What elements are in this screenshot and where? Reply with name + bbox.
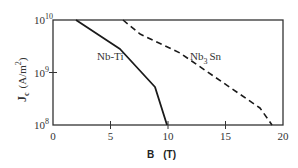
y-tick-1e8: 108 [34,117,49,131]
x-tick-0: 0 [50,130,56,142]
plot-frame [53,20,283,125]
y-tick-labels: 1010 109 108 [34,12,53,131]
x-tick-20: 20 [278,130,290,142]
chart: 0 5 10 15 20 1010 109 108 Jc(A/m2) B(T) … [0,0,298,168]
y-tick-1e9: 109 [34,65,49,79]
series-nbti-label: Nb-Ti [97,50,124,62]
series-nbti-line [76,20,167,125]
y-tick-1e10: 1010 [34,12,53,26]
x-tick-5: 5 [108,130,114,142]
x-tick-10: 10 [163,130,175,142]
y-axis-title: Jc(A/m2) [14,57,31,102]
x-tick-labels: 0 5 10 15 20 [50,130,289,142]
x-axis-title: B(T) [147,149,176,160]
series-nb3sn-line [123,20,272,125]
x-tick-15: 15 [220,130,232,142]
